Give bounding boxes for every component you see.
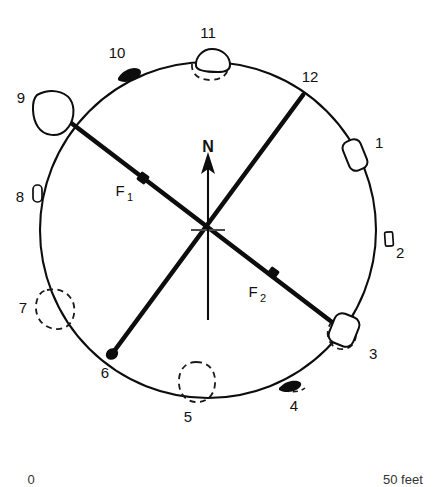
feature-4-marker bbox=[279, 381, 305, 392]
feature-11-marker bbox=[192, 49, 230, 80]
feature-8-marker bbox=[33, 185, 42, 202]
feature-label-12: 12 bbox=[302, 68, 319, 85]
feature-4-solid-mark bbox=[279, 381, 301, 392]
feature-5-marker bbox=[179, 362, 215, 402]
feature-3-marker bbox=[326, 311, 362, 349]
chord-label-f2: F bbox=[248, 283, 257, 300]
feature-label-3: 3 bbox=[369, 345, 377, 362]
feature-label-5: 5 bbox=[184, 408, 192, 425]
site-plan-figure: 1 2 3 4 5 6 7 8 9 10 11 12 F 1 F 2 N 0 5… bbox=[0, 0, 443, 487]
scale-bar-left-label: 0 bbox=[27, 472, 34, 487]
feature-label-1: 1 bbox=[375, 134, 383, 151]
chord-label-f1: F bbox=[115, 182, 124, 199]
feature-9-solid-outline bbox=[33, 91, 74, 135]
feature-9-marker bbox=[33, 91, 74, 135]
feature-label-10: 10 bbox=[109, 44, 126, 61]
feature-11-solid-outline bbox=[196, 49, 230, 72]
feature-10-marker bbox=[118, 68, 141, 82]
site-plan-svg: 1 2 3 4 5 6 7 8 9 10 11 12 F 1 F 2 N 0 5… bbox=[0, 0, 443, 487]
feature-10-solid-mark bbox=[118, 68, 141, 82]
feature-label-6: 6 bbox=[101, 364, 109, 381]
feature-label-2: 2 bbox=[396, 244, 404, 261]
feature-1-marker bbox=[340, 137, 369, 173]
feature-label-8: 8 bbox=[16, 188, 24, 205]
feature-label-4: 4 bbox=[290, 397, 298, 414]
feature-label-9: 9 bbox=[17, 89, 25, 106]
chord-label-f2-subscript: 2 bbox=[260, 292, 266, 304]
feature-label-11: 11 bbox=[200, 24, 216, 41]
north-label: N bbox=[202, 138, 214, 155]
feature-label-7: 7 bbox=[19, 299, 27, 316]
feature-5-dashed-outline bbox=[179, 362, 215, 402]
chord-label-f1-subscript: 1 bbox=[127, 191, 133, 203]
scale-bar-right-label: 50 feet bbox=[383, 472, 423, 487]
feature-2-marker bbox=[385, 232, 394, 247]
